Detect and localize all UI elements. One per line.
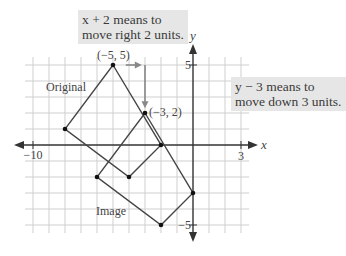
callout-y-line2: move down 3 units. (235, 94, 342, 109)
label-image: Image (96, 204, 126, 219)
original-vertex-dot (127, 175, 132, 180)
move-down-arrowhead-icon (142, 101, 149, 108)
move-right-arrowhead-icon (135, 62, 142, 69)
tick-label-x-min: −10 (24, 148, 43, 162)
y-axis-up-arrow-icon (189, 44, 197, 54)
image-vertex-dot (159, 223, 164, 228)
tick-label-x-max: 3 (238, 149, 244, 163)
image-vertex-dot (143, 111, 148, 116)
image-vertex-dot (95, 175, 100, 180)
y-axis-label: y (188, 28, 196, 43)
callout-x-line1: x + 2 means to (82, 12, 184, 27)
image-vertex-dot (191, 191, 196, 196)
point-label-top-vertex: (−5, 5) (97, 48, 130, 63)
original-vertex-dot (111, 63, 116, 68)
original-vertex-dot (63, 127, 68, 132)
callout-x-shift: x + 2 means to move right 2 units. (78, 10, 188, 44)
callout-y-line1: y − 3 means to (235, 79, 342, 94)
x-axis-right-arrow-icon (248, 141, 258, 149)
point-label-image-vertex: (−3, 2) (149, 105, 182, 120)
callout-x-line2: move right 2 units. (82, 27, 184, 42)
axes (14, 44, 258, 242)
y-axis-down-arrow-icon (189, 232, 197, 242)
tick-label-y-min: −5 (178, 218, 191, 232)
label-original: Original (46, 80, 86, 95)
callout-y-shift: y − 3 means to move down 3 units. (231, 77, 346, 111)
x-axis-label: x (260, 137, 267, 152)
tick-label-y-max: 5 (185, 58, 191, 72)
x-axis-left-arrow-icon (14, 141, 24, 149)
